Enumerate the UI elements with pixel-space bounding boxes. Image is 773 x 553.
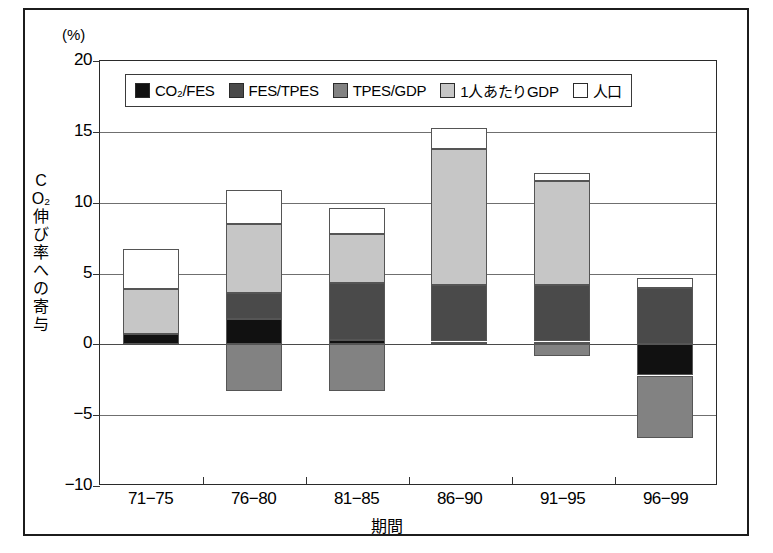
x-tick-mark (306, 477, 307, 484)
bar-segment[interactable] (637, 376, 693, 438)
bar-segment[interactable] (329, 283, 385, 340)
x-tick-mark (512, 477, 513, 484)
legend-swatch-icon (135, 83, 150, 98)
legend-label: FES/TPES (249, 82, 319, 99)
y-tick-label: 0 (83, 333, 92, 353)
bar-segment[interactable] (534, 173, 590, 182)
x-tick-label: 86−90 (408, 489, 511, 513)
y-tick-label: 5 (83, 263, 92, 283)
bar-segment[interactable] (226, 293, 282, 319)
legend-label: TPES/GDP (353, 82, 426, 99)
bar-column (100, 61, 203, 484)
legend-swatch-icon (440, 83, 455, 98)
x-tick-label: 76−80 (202, 489, 305, 513)
legend-label: 人口 (593, 80, 622, 101)
bar-group (100, 61, 716, 484)
bar-segment[interactable] (637, 344, 693, 375)
bar-segment[interactable] (637, 288, 693, 345)
y-tick-label: −5 (74, 404, 92, 424)
y-tick-mark (93, 415, 100, 416)
bar-segment[interactable] (123, 249, 179, 289)
y-tick-mark (93, 486, 100, 487)
plot-area (99, 60, 717, 485)
y-tick-label: −10 (65, 475, 92, 495)
y-tick-mark (93, 61, 100, 62)
y-tick-label: 15 (74, 121, 92, 141)
bar-segment[interactable] (226, 319, 282, 345)
y-tick-mark (93, 344, 100, 345)
y-tick-label: 20 (74, 50, 92, 70)
bar-column (511, 61, 614, 484)
bar-segment[interactable] (431, 285, 487, 342)
bar-segment[interactable] (431, 149, 487, 285)
y-tick-label: 10 (74, 192, 92, 212)
bar-segment[interactable] (534, 285, 590, 342)
legend-item[interactable]: FES/TPES (229, 82, 319, 99)
y-axis-tick-labels: 20151050−5−10 (40, 60, 92, 485)
bar-segment[interactable] (534, 181, 590, 284)
x-tick-label: 91−95 (511, 489, 614, 513)
bar-column (408, 61, 511, 484)
legend-label: CO₂/FES (155, 82, 215, 99)
legend-swatch-icon (333, 83, 348, 98)
y-tick-mark (93, 132, 100, 133)
bar-segment[interactable] (329, 208, 385, 234)
bar-segment[interactable] (431, 128, 487, 149)
legend-item[interactable]: 1人あたりGDP (440, 80, 558, 101)
y-tick-mark (93, 203, 100, 204)
chart-figure: (%) CO₂伸び率への寄与 20151050−5−10 CO₂/FESFES/… (0, 0, 773, 553)
y-axis-unit: (%) (62, 26, 85, 43)
bar-column (613, 61, 716, 484)
bar-segment[interactable] (534, 344, 590, 355)
x-tick-mark (409, 477, 410, 484)
bar-segment[interactable] (226, 190, 282, 224)
x-axis-tick-labels: 71−7576−8081−8586−9091−9596−99 (99, 489, 717, 513)
legend-swatch-icon (229, 83, 244, 98)
y-tick-mark (93, 274, 100, 275)
x-tick-mark (615, 477, 616, 484)
x-axis-title: 期間 (0, 513, 773, 537)
x-tick-label: 81−85 (305, 489, 408, 513)
legend-item[interactable]: TPES/GDP (333, 82, 426, 99)
bar-segment[interactable] (637, 278, 693, 287)
x-tick-mark (203, 477, 204, 484)
legend-label: 1人あたりGDP (460, 80, 558, 101)
bar-segment[interactable] (329, 344, 385, 391)
bar-segment[interactable] (226, 344, 282, 391)
legend-swatch-icon (573, 83, 588, 98)
chart-legend: CO₂/FESFES/TPESTPES/GDP1人あたりGDP人口 (125, 74, 632, 107)
x-tick-label: 71−75 (99, 489, 202, 513)
bar-segment[interactable] (123, 289, 179, 334)
x-tick-label: 96−99 (614, 489, 717, 513)
bar-column (305, 61, 408, 484)
bar-column (203, 61, 306, 484)
bar-segment[interactable] (329, 234, 385, 284)
bar-segment[interactable] (226, 224, 282, 293)
bar-segment[interactable] (123, 334, 179, 344)
legend-item[interactable]: CO₂/FES (135, 82, 215, 99)
bar-segment[interactable] (431, 342, 487, 345)
legend-item[interactable]: 人口 (573, 80, 622, 101)
